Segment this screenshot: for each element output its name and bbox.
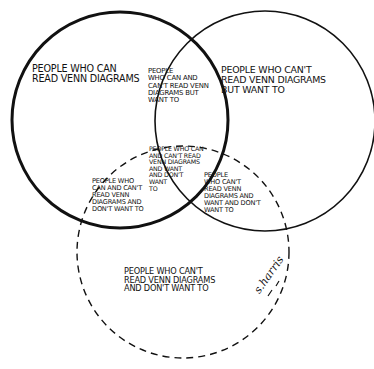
region-can-and-cant-dont-want: People who can and can't read Venn diagr… (92, 178, 172, 213)
region-can-read: People who can read Venn diagrams (32, 64, 152, 84)
region-cant-read-want-to: People who can't read Venn diagrams but … (221, 65, 351, 95)
region-cant-want-and-dont-want: People who can't read Venn diagrams and … (204, 172, 286, 214)
region-cant-read-dont-want: People who can't read Venn diagrams and … (124, 267, 254, 293)
region-can-and-cant-want-to: People who can and can't read Venn diagr… (148, 68, 224, 104)
